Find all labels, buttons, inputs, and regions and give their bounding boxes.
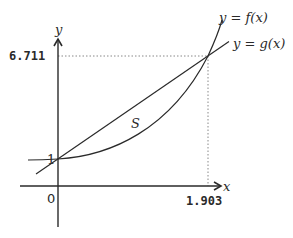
curve-g-line xyxy=(36,42,229,175)
x-intersection-label: 1.903 xyxy=(186,194,222,208)
y-axis-label: y xyxy=(54,22,63,37)
region-s-label: S xyxy=(131,116,140,131)
origin-label: 0 xyxy=(47,191,55,206)
function-graph-diagram: y x 0 6.711 1.903 1 y = f(x) y = g(x) S xyxy=(0,0,293,238)
x-axis-label: x xyxy=(223,179,231,194)
y-intersection-label: 6.711 xyxy=(9,49,45,63)
curve-g-label: y = g(x) xyxy=(232,36,285,51)
curve-f-label: y = f(x) xyxy=(218,10,268,25)
y-intercept-label: 1 xyxy=(47,152,55,167)
